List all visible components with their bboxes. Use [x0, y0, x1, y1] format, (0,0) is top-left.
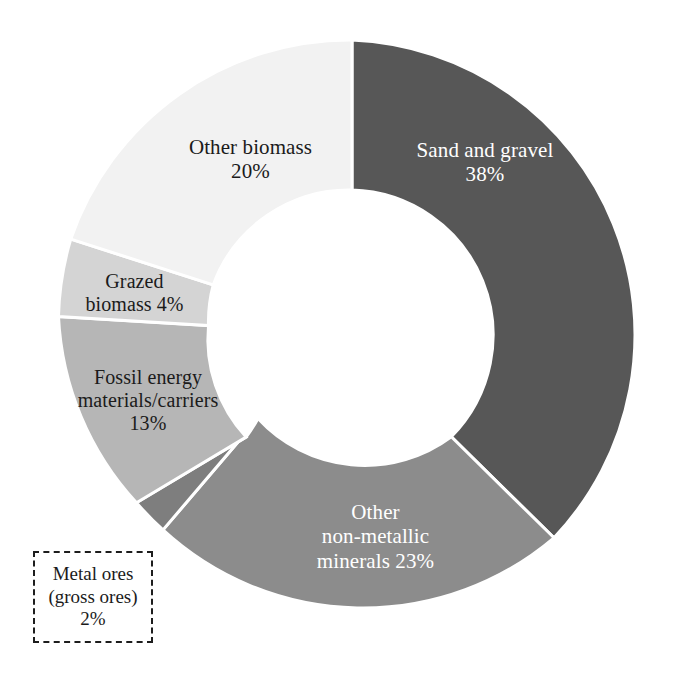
callout-line-1: Metal ores — [53, 563, 134, 586]
callout-line-2: (gross ores) — [48, 586, 137, 609]
donut-chart: Sand and gravel 38% Other biomass 20% Gr… — [0, 0, 673, 677]
slice-callout-metal-ores: Metal ores (gross ores) 2% — [33, 551, 153, 643]
callout-line-3: 2% — [80, 608, 105, 631]
donut-slices — [59, 40, 635, 608]
slice-other-biomass[interactable] — [71, 40, 352, 285]
